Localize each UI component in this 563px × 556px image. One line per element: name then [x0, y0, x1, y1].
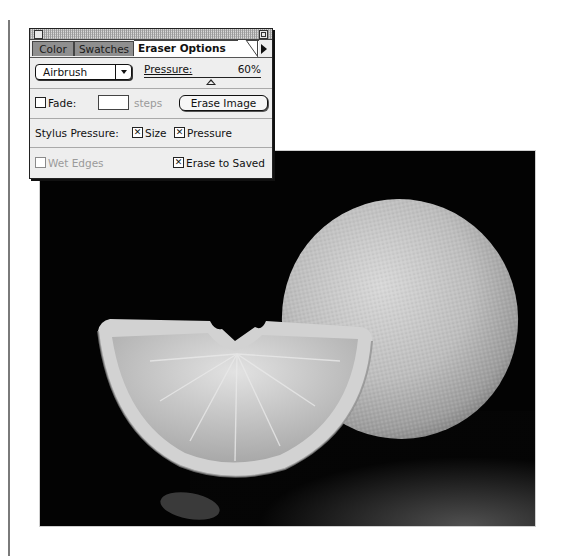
zoom-box-icon[interactable] [259, 30, 268, 39]
tab-swatches[interactable]: Swatches [74, 41, 134, 56]
palette-title-bar[interactable] [30, 29, 272, 40]
eraser-mode-select[interactable]: Airbrush [35, 64, 132, 80]
fade-steps-input[interactable] [98, 95, 129, 110]
document-edge-rule [8, 20, 10, 556]
stylus-pressure-checkbox[interactable] [174, 127, 185, 138]
wet-edges-label: Wet Edges [48, 157, 104, 169]
stylus-size-label: Size [145, 127, 167, 139]
erase-image-button[interactable]: Erase Image [179, 95, 268, 111]
palette-menu-arrow-icon[interactable] [257, 41, 270, 56]
orange-photo [40, 151, 535, 526]
pressure-slider-thumb[interactable] [206, 79, 216, 85]
fade-checkbox[interactable] [35, 97, 46, 108]
mode-pressure-row: Airbrush Pressure: 60% [30, 58, 272, 89]
pressure-label: Pressure: [144, 63, 192, 75]
stylus-size-checkbox[interactable] [132, 127, 143, 138]
wet-edges-checkbox[interactable] [35, 157, 46, 168]
tab-color[interactable]: Color [32, 41, 74, 56]
fade-label: Fade: [48, 97, 76, 109]
pressure-value[interactable]: 60% [238, 63, 261, 75]
close-box-icon[interactable] [34, 30, 43, 39]
stylus-pressure-label: Stylus Pressure: [35, 127, 119, 139]
chevron-down-icon [115, 65, 131, 79]
fade-row: Fade: steps Erase Image [30, 89, 272, 119]
pressure-slider-track[interactable] [144, 77, 261, 78]
fade-steps-unit: steps [134, 97, 162, 109]
eraser-mode-value: Airbrush [43, 66, 87, 79]
stylus-pressure-row: Stylus Pressure: Size Pressure [30, 119, 272, 148]
erase-to-saved-label: Erase to Saved [186, 157, 265, 169]
wet-edges-row: Wet Edges Erase to Saved [30, 148, 272, 177]
eraser-options-palette: Color Swatches Eraser Options Airbrush P… [29, 28, 273, 179]
erase-to-saved-checkbox[interactable] [173, 157, 184, 168]
stylus-pressure-option-label: Pressure [187, 127, 232, 139]
image-canvas[interactable] [40, 151, 535, 526]
palette-tabs: Color Swatches Eraser Options [30, 40, 272, 58]
